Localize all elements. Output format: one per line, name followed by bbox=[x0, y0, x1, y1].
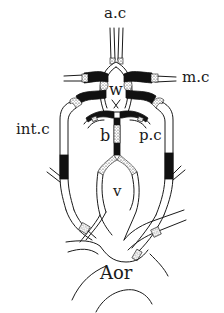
label-vertebral: v bbox=[113, 184, 121, 199]
label-posterior-cerebral: p.c bbox=[139, 128, 162, 143]
aortic-arch bbox=[66, 210, 186, 312]
label-anterior-cerebral: a.c bbox=[104, 6, 126, 21]
label-basilar: b bbox=[100, 128, 110, 144]
label-middle-cerebral: m.c bbox=[182, 70, 209, 85]
label-willis-circle: w bbox=[109, 82, 123, 98]
label-internal-carotid: int.c bbox=[16, 122, 50, 137]
label-aorta: Aor bbox=[100, 264, 132, 282]
anterior-cerebral-arteries bbox=[110, 28, 123, 64]
